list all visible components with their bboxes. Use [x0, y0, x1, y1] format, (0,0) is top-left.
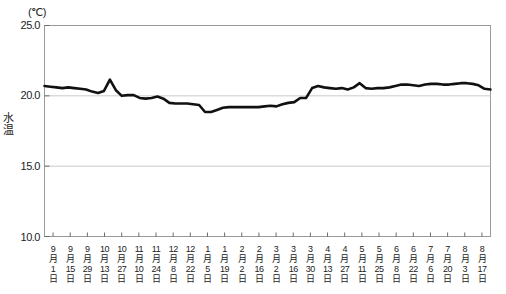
water-temperature-chart: (℃) 水温 25.0 20.0 15.0 10.0 9月1日9月15日9月29…: [0, 0, 506, 294]
x-axis-labels: 9月1日9月15日9月29日10月13日10月27日11月10日11月24日12…: [0, 244, 506, 294]
plot-frame: [45, 26, 491, 237]
x-tick-label: 6月22日: [405, 244, 421, 284]
x-tick-label: 4月27日: [337, 244, 353, 284]
x-tick-label: 9月29日: [79, 244, 95, 284]
x-tick-label: 9月1日: [45, 244, 61, 284]
x-tick-label: 5月25日: [371, 244, 387, 284]
x-tick-label: 9月15日: [62, 244, 78, 284]
x-tick-label: 11月10日: [131, 244, 147, 284]
x-tick-label: 3月16日: [285, 244, 301, 284]
x-tick-label: 10月13日: [97, 244, 113, 284]
x-tick-label: 7月20日: [440, 244, 456, 284]
x-tick-label: 10月27日: [114, 244, 130, 284]
x-tick-label: 2月2日: [234, 244, 250, 284]
x-tick-label: 3月30日: [302, 244, 318, 284]
x-tick-label: 12月22日: [182, 244, 198, 284]
x-tick-label: 7月6日: [422, 244, 438, 284]
x-tick-label: 3月2日: [268, 244, 284, 284]
x-tick-label: 8月3日: [457, 244, 473, 284]
y-axis-tick-marks: [45, 26, 50, 237]
x-tick-label: 1月19日: [217, 244, 233, 284]
x-tick-label: 4月13日: [320, 244, 336, 284]
x-tick-label: 2月16日: [251, 244, 267, 284]
x-tick-label: 12月8日: [165, 244, 181, 284]
x-tick-label: 1月5日: [199, 244, 215, 284]
x-tick-label: 6月8日: [388, 244, 404, 284]
x-axis-tick-marks: [53, 233, 482, 237]
x-tick-label: 8月17日: [474, 244, 490, 284]
x-tick-label: 11月24日: [148, 244, 164, 284]
x-tick-label: 5月11日: [354, 244, 370, 284]
